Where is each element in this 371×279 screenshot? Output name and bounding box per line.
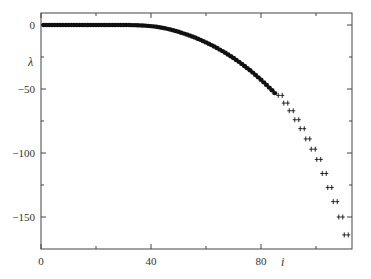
y-tick-label: −50 xyxy=(18,83,36,95)
x-tick-label: 40 xyxy=(146,255,158,267)
y-tick-label: −100 xyxy=(12,147,35,159)
y-axis-label: λ xyxy=(27,55,33,69)
x-tick-label: 80 xyxy=(256,255,268,267)
dot-marker xyxy=(272,91,277,95)
chart: 040800−50−100−150 i λ xyxy=(0,0,371,279)
y-tick-label: −150 xyxy=(12,211,35,223)
plot-border xyxy=(41,13,352,249)
axis-ticks xyxy=(41,13,352,249)
x-axis-label: i xyxy=(281,255,284,269)
x-tick-label: 0 xyxy=(38,255,44,267)
data-points xyxy=(41,23,350,238)
plot-frame xyxy=(41,13,352,249)
y-tick-label: 0 xyxy=(30,19,36,31)
